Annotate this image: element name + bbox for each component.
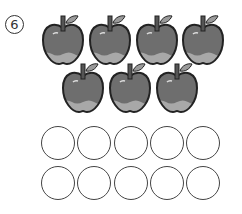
apple-icon <box>61 62 105 114</box>
apple-icon <box>155 62 199 114</box>
apple-icon <box>88 14 132 66</box>
answer-circle[interactable] <box>41 126 75 160</box>
answer-circle[interactable] <box>186 166 220 200</box>
apple-icon <box>181 14 225 66</box>
answer-circle[interactable] <box>41 166 75 200</box>
answer-circle[interactable] <box>186 126 220 160</box>
apple-icon <box>108 62 152 114</box>
problem-number: 6 <box>5 15 24 34</box>
answer-circle[interactable] <box>77 126 111 160</box>
answer-circle[interactable] <box>114 166 148 200</box>
answer-circle[interactable] <box>150 126 184 160</box>
answer-circle[interactable] <box>114 126 148 160</box>
apple-icon <box>41 14 85 66</box>
answer-circle[interactable] <box>77 166 111 200</box>
answer-circle[interactable] <box>150 166 184 200</box>
apple-icon <box>135 14 179 66</box>
